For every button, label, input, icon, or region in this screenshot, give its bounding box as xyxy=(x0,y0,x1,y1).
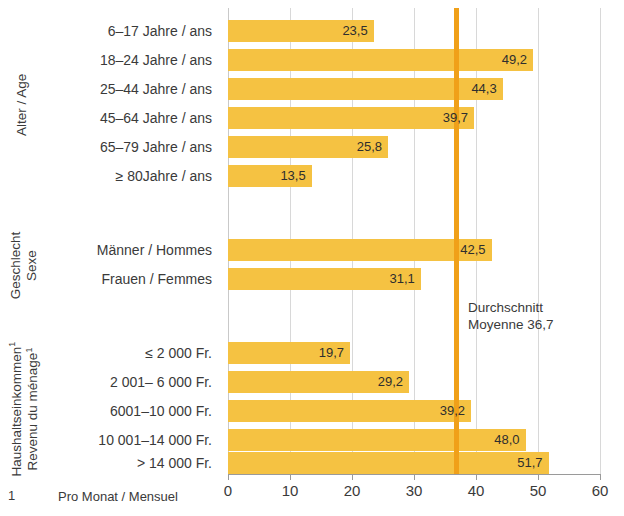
bar-row: 39,7 xyxy=(228,107,600,129)
bar-value-label: 51,7 xyxy=(228,452,549,474)
bar-value-label: 48,0 xyxy=(228,429,526,451)
bar-row: 31,1 xyxy=(228,268,600,290)
bar-value-label: 49,2 xyxy=(228,49,533,71)
category-label: 25–44 Jahre / ans xyxy=(0,78,220,100)
bar-row: 49,2 xyxy=(228,49,600,71)
category-label: 10 001–14 000 Fr. xyxy=(0,429,220,451)
plot-area: 23,5 49,2 44,3 39,7 25,8 13,5 42,5 xyxy=(228,8,600,474)
x-tick-label: 10 xyxy=(270,482,310,499)
bar-value-label: 23,5 xyxy=(228,20,374,42)
bar-value-label: 44,3 xyxy=(228,78,503,100)
x-tick xyxy=(476,474,477,480)
bar-row: 51,7 xyxy=(228,452,600,474)
bar-value-label: 25,8 xyxy=(228,136,388,158)
category-label: 18–24 Jahre / ans xyxy=(0,49,220,71)
bar-row: 48,0 xyxy=(228,429,600,451)
bar-row: 42,5 xyxy=(228,239,600,261)
bar-row: 44,3 xyxy=(228,78,600,100)
average-annotation-line1: Durchschnitt xyxy=(468,300,554,317)
x-tick-label: 60 xyxy=(580,482,620,499)
x-tick xyxy=(228,474,229,480)
category-label: > 14 000 Fr. xyxy=(0,452,220,474)
bar-chart: Alter / Age Geschlecht Sexe Haushaltsein… xyxy=(0,0,624,516)
bar-value-label: 19,7 xyxy=(228,342,350,364)
footnote-text: Pro Monat / Mensuel xyxy=(58,489,178,504)
category-label: 6001–10 000 Fr. xyxy=(0,400,220,422)
bar-value-label: 29,2 xyxy=(228,371,409,393)
x-tick xyxy=(600,474,601,480)
average-annotation-line2: Moyenne 36,7 xyxy=(468,317,554,334)
x-tick xyxy=(414,474,415,480)
average-annotation: Durchschnitt Moyenne 36,7 xyxy=(468,300,554,334)
gridline-60 xyxy=(600,8,601,474)
x-tick xyxy=(290,474,291,480)
bar-value-label: 39,7 xyxy=(228,107,474,129)
category-label: ≥ 80Jahre / ans xyxy=(0,165,220,187)
bar-value-label: 39,2 xyxy=(228,400,471,422)
category-label: Männer / Hommes xyxy=(0,239,220,261)
x-tick xyxy=(352,474,353,480)
bar-row: 29,2 xyxy=(228,371,600,393)
x-tick-label: 0 xyxy=(208,482,248,499)
bar-row: 13,5 xyxy=(228,165,600,187)
group-label-sex: Geschlecht Sexe xyxy=(8,221,39,311)
x-tick-label: 30 xyxy=(394,482,434,499)
category-label: 6–17 Jahre / ans xyxy=(0,20,220,42)
bar-row: 19,7 xyxy=(228,342,600,364)
bar-value-label: 31,1 xyxy=(228,268,421,290)
group-label-sex-line2: Sexe xyxy=(24,221,40,311)
bar-row: 25,8 xyxy=(228,136,600,158)
category-label: ≤ 2 000 Fr. xyxy=(0,342,220,364)
bar-value-label: 13,5 xyxy=(228,165,312,187)
x-tick-label: 20 xyxy=(332,482,372,499)
category-label: 45–64 Jahre / ans xyxy=(0,107,220,129)
x-tick-label: 50 xyxy=(518,482,558,499)
footnote-marker: 1 xyxy=(8,488,15,503)
bar-row: 23,5 xyxy=(228,20,600,42)
category-label: Frauen / Femmes xyxy=(0,268,220,290)
bar-value-label: 42,5 xyxy=(228,239,492,261)
bar-row: 39,2 xyxy=(228,400,600,422)
category-label: 2 001– 6 000 Fr. xyxy=(0,371,220,393)
x-tick-label: 40 xyxy=(456,482,496,499)
category-label: 65–79 Jahre / ans xyxy=(0,136,220,158)
x-tick xyxy=(538,474,539,480)
